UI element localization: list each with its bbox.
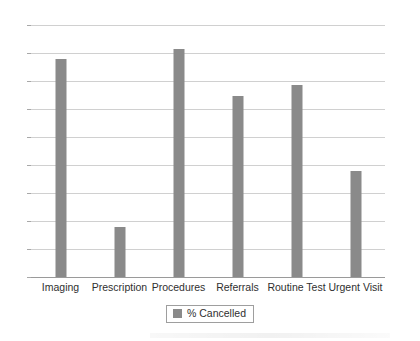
bar-slot bbox=[267, 25, 326, 277]
legend-swatch-icon bbox=[173, 309, 182, 318]
x-axis-label-procedures: Procedures bbox=[149, 280, 208, 294]
chart-legend: % Cancelled bbox=[0, 305, 420, 323]
x-axis-label-referrals: Referrals bbox=[208, 280, 267, 294]
bar-chart: 0102030405060708090 ImagingPrescriptionP… bbox=[0, 0, 420, 341]
bar[interactable] bbox=[173, 49, 184, 277]
bar[interactable] bbox=[232, 96, 243, 277]
gridline-0 bbox=[31, 277, 385, 278]
x-axis-label-prescription: Prescription bbox=[90, 280, 149, 294]
x-axis-label-urgent-visit: Urgent Visit bbox=[326, 280, 385, 294]
x-axis-label-imaging: Imaging bbox=[31, 280, 90, 294]
y-tickmark-0 bbox=[27, 277, 31, 278]
bar[interactable] bbox=[114, 227, 125, 277]
x-axis-labels: ImagingPrescriptionProceduresReferralsRo… bbox=[31, 280, 385, 298]
bar[interactable] bbox=[55, 59, 66, 277]
bar[interactable] bbox=[291, 85, 302, 277]
legend-label: % Cancelled bbox=[187, 308, 246, 319]
x-axis-label-routine-test: Routine Test bbox=[267, 280, 326, 294]
scan-artifact bbox=[150, 333, 390, 338]
bar-slot bbox=[208, 25, 267, 277]
bar[interactable] bbox=[350, 171, 361, 277]
legend-box: % Cancelled bbox=[166, 305, 254, 323]
bar-slot bbox=[90, 25, 149, 277]
bar-slot bbox=[326, 25, 385, 277]
bar-series-cancelled bbox=[31, 25, 385, 277]
bar-slot bbox=[31, 25, 90, 277]
bar-slot bbox=[149, 25, 208, 277]
